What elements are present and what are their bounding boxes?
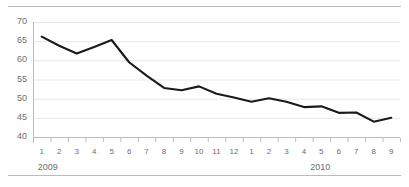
y-tick-label-65: 65 xyxy=(3,36,27,45)
y-tick-label-40: 40 xyxy=(3,132,27,141)
year-label-2009: 2009 xyxy=(38,163,58,172)
chart-svg xyxy=(0,0,409,187)
gridlines-group xyxy=(33,23,400,138)
x-tick-label-10: 11 xyxy=(210,148,224,156)
x-tick-label-13: 2 xyxy=(262,148,276,156)
x-tick-label-20: 9 xyxy=(384,148,398,156)
x-tick-label-6: 7 xyxy=(140,148,154,156)
x-tick-label-18: 7 xyxy=(349,148,363,156)
x-tick-label-9: 10 xyxy=(192,148,206,156)
y-tick-label-45: 45 xyxy=(3,113,27,122)
x-tick-label-5: 6 xyxy=(122,148,136,156)
y-tick-label-50: 50 xyxy=(3,94,27,103)
x-tick-label-14: 3 xyxy=(279,148,293,156)
x-tick-label-8: 9 xyxy=(175,148,189,156)
axes-group xyxy=(33,22,400,143)
x-tick-label-11: 12 xyxy=(227,148,241,156)
chart-figure: 40455055606570 123456789101112123456789 … xyxy=(0,0,409,187)
line-chart-plot-area xyxy=(0,0,409,187)
x-tick-label-15: 4 xyxy=(297,148,311,156)
x-tick-label-12: 1 xyxy=(244,148,258,156)
x-tick-label-7: 8 xyxy=(157,148,171,156)
data-line-group xyxy=(42,37,392,122)
data-series-line xyxy=(42,37,392,122)
x-tick-label-0: 1 xyxy=(35,148,49,156)
x-tick-label-1: 2 xyxy=(52,148,66,156)
x-tick-label-4: 5 xyxy=(105,148,119,156)
x-tick-label-16: 5 xyxy=(314,148,328,156)
x-tick-label-3: 4 xyxy=(87,148,101,156)
x-tick-label-2: 3 xyxy=(70,148,84,156)
x-tick-label-17: 6 xyxy=(332,148,346,156)
x-tick-label-19: 8 xyxy=(367,148,381,156)
x-tick-marks-group xyxy=(34,138,401,142)
y-tick-label-55: 55 xyxy=(3,75,27,84)
y-tick-label-60: 60 xyxy=(3,55,27,64)
y-tick-label-70: 70 xyxy=(3,17,27,26)
year-label-2010: 2010 xyxy=(310,163,330,172)
